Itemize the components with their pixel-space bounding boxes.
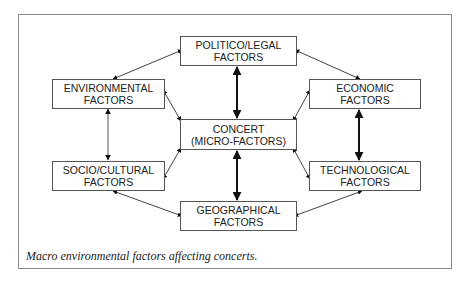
arrow-technological-concert: [293, 148, 310, 179]
arrow-environmental-concert: [163, 90, 181, 121]
node-label: FACTORS: [340, 176, 389, 188]
node-label: FACTORS: [340, 94, 389, 106]
node-label: TECHNOLOGICAL: [320, 164, 410, 176]
arrow-socio-geographical: [113, 191, 182, 216]
node-label: FACTORS: [84, 94, 133, 106]
arrow-politico-economic: [295, 50, 360, 79]
node-label: ECONOMIC: [336, 82, 394, 94]
arrow-technological-geographical: [294, 191, 362, 216]
node-label: FACTORS: [84, 176, 133, 188]
node-label: ENVIRONMENTAL: [64, 82, 154, 94]
node-concert: CONCERT (MICRO-FACTORS): [180, 119, 297, 150]
node-environmental: ENVIRONMENTAL FACTORS: [52, 79, 165, 109]
node-label: GEOGRAPHICAL: [196, 204, 280, 216]
node-label: FACTORS: [214, 51, 263, 63]
node-politico-legal: POLITICO/LEGAL FACTORS: [180, 36, 297, 66]
node-label: CONCERT: [213, 123, 265, 135]
arrow-economic-concert: [293, 90, 310, 121]
arrow-socio-concert: [163, 148, 181, 179]
node-technological: TECHNOLOGICAL FACTORS: [309, 161, 421, 191]
figure-caption: Macro environmental factors affecting co…: [26, 249, 257, 264]
arrow-politico-environmental: [113, 50, 182, 79]
node-geographical: GEOGRAPHICAL FACTORS: [180, 201, 297, 231]
node-label: SOCIO/CULTURAL: [63, 164, 154, 176]
node-label: POLITICO/LEGAL: [196, 39, 282, 51]
node-label: (MICRO-FACTORS): [191, 135, 286, 147]
node-economic: ECONOMIC FACTORS: [309, 79, 421, 109]
node-socio-cultural: SOCIO/CULTURAL FACTORS: [52, 161, 165, 191]
node-label: FACTORS: [214, 216, 263, 228]
